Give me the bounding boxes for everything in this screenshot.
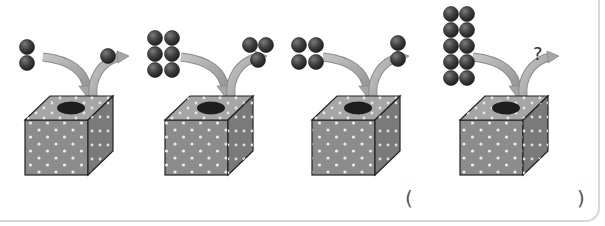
ball: [148, 31, 163, 46]
input-balls: [444, 7, 475, 86]
ball: [165, 63, 180, 78]
ball: [101, 49, 116, 64]
ball: [391, 52, 406, 67]
ball: [444, 39, 459, 54]
box-front-dots: [312, 120, 375, 175]
box-hole: [57, 102, 85, 115]
ball: [243, 38, 258, 53]
ball: [292, 55, 307, 70]
box-front-dots: [460, 120, 523, 175]
ball: [309, 38, 324, 53]
ball: [165, 47, 180, 62]
box-front-dots: [165, 120, 228, 175]
box-front-dots: [25, 120, 88, 175]
ball: [292, 38, 307, 53]
ball: [444, 55, 459, 70]
input-balls: [148, 31, 180, 78]
ball: [460, 55, 475, 70]
ball: [460, 23, 475, 38]
magic-box: [25, 96, 113, 175]
answer-open-paren: (: [405, 186, 413, 210]
ball: [20, 40, 35, 55]
ball: [148, 47, 163, 62]
example-2: [148, 31, 274, 176]
ball: [460, 71, 475, 86]
example-3: [292, 36, 410, 176]
box-hole: [197, 102, 225, 115]
ball: [460, 7, 475, 22]
example-4: [444, 7, 560, 176]
ball: [251, 53, 266, 68]
magic-box: [312, 96, 400, 175]
ball: [259, 38, 274, 53]
box-hole: [492, 102, 520, 115]
ball: [309, 55, 324, 70]
input-balls: [20, 40, 35, 71]
ball: [165, 31, 180, 46]
ball: [444, 71, 459, 86]
arrows: [43, 51, 129, 97]
ball: [444, 7, 459, 22]
unknown-output-label: ?: [533, 43, 543, 64]
magic-box: [460, 96, 548, 175]
example-1: [20, 40, 130, 176]
magic-box: [165, 96, 253, 175]
ball: [20, 56, 35, 71]
input-balls: [292, 38, 324, 70]
output-balls: [101, 49, 116, 64]
out-arrow-head: [547, 51, 559, 63]
answer-close-paren: ): [577, 186, 585, 210]
arrows: [473, 51, 559, 97]
ball: [444, 23, 459, 38]
box-hole: [344, 102, 372, 115]
answer-blank[interactable]: [420, 186, 570, 212]
out-arrow-head: [117, 51, 129, 63]
ball: [148, 63, 163, 78]
ball: [391, 36, 406, 51]
ball: [460, 39, 475, 54]
